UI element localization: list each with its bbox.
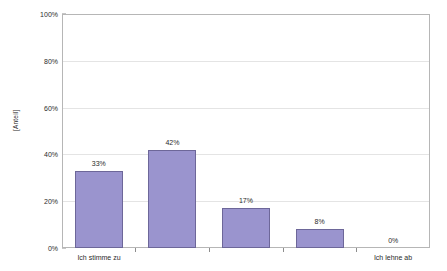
bar-value-label-2: 42% <box>165 139 179 146</box>
bars-layer: 33% 42% 17% 8% 0% <box>62 14 430 248</box>
bar-value-label-1: 33% <box>92 160 106 167</box>
bar-value-label-3: 17% <box>239 197 253 204</box>
x-tick-mark-4 <box>356 248 357 252</box>
x-tick-mark-2 <box>209 248 210 252</box>
bar-value-label-4: 8% <box>315 218 325 225</box>
bar-slot-4: 8% <box>283 14 357 248</box>
bar-slot-5: 0% <box>356 14 430 248</box>
bar-category-2[interactable] <box>148 150 196 248</box>
x-category-label-ich-stimme-zu: Ich stimme zu <box>77 254 120 261</box>
bar-slot-3: 17% <box>209 14 283 248</box>
bar-value-label-5: 0% <box>388 237 398 244</box>
bar-category-3[interactable] <box>222 208 270 248</box>
bar-slot-1: 33% <box>62 14 136 248</box>
x-tick-mark-3 <box>283 248 284 252</box>
bar-category-4[interactable] <box>296 229 344 248</box>
y-tick-marks <box>0 14 66 248</box>
bar-chart: [Anteil] 100% 80% 60% 40% 20% 0% 33% 42% <box>0 0 447 271</box>
bar-ich-stimme-zu[interactable] <box>75 171 123 248</box>
x-tick-mark-1 <box>135 248 136 252</box>
x-category-label-ich-lehne-ab: Ich lehne ab <box>374 254 412 261</box>
bar-slot-2: 42% <box>136 14 210 248</box>
